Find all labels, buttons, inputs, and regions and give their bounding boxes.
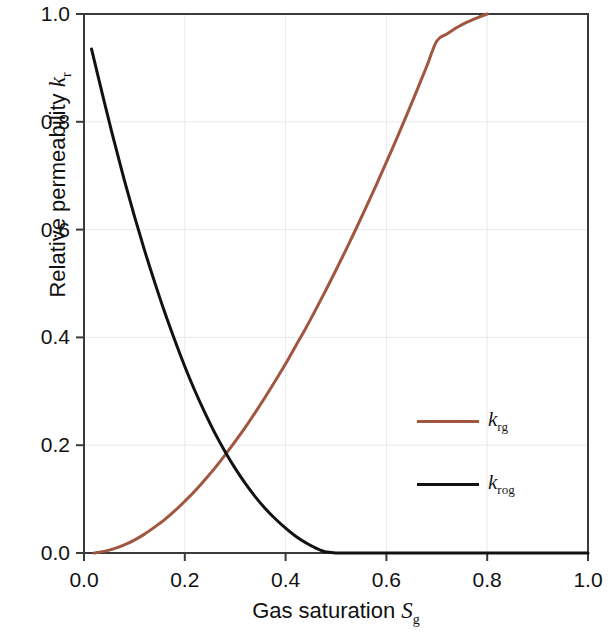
legend-item-k_rog: krog (414, 470, 544, 500)
x-tick-label: 0.4 (251, 569, 321, 590)
legend-label-k_rg: krg (488, 407, 508, 435)
x-tick-label: 0.0 (49, 569, 119, 590)
x-tick-label: 0.2 (150, 569, 220, 590)
y-axis-title-text: Relative permeability kr (45, 72, 70, 297)
chart-figure: 0.00.20.40.60.81.0 0.00.20.40.60.81.0 Re… (0, 0, 613, 636)
legend-swatch-k_rog (417, 483, 479, 486)
x-axis-title: Gas saturation Sg (84, 598, 588, 628)
chart-legend: krgkrog (414, 404, 544, 504)
plot-canvas (0, 0, 613, 636)
y-tick-label: 0.2 (0, 434, 70, 455)
x-tick-label: 0.8 (452, 569, 522, 590)
legend-label-k_rog: krog (488, 470, 515, 498)
legend-swatch-k_rg (417, 420, 479, 423)
legend-item-k_rg: krg (414, 407, 544, 437)
x-axis-title-text: Gas saturation Sg (252, 598, 420, 623)
x-tick-label: 0.6 (351, 569, 421, 590)
y-tick-label: 0.0 (0, 542, 70, 563)
y-axis-title: Relative permeability kr (45, 15, 75, 355)
x-tick-label: 1.0 (553, 569, 613, 590)
